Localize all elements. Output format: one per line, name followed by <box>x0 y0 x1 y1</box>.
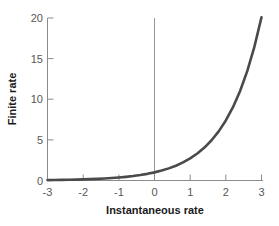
exponential-plot-svg: 20 15 10 5 0 -3 -2 -1 0 1 2 3 Instantane… <box>0 0 279 226</box>
x-tick-label-neg2: -2 <box>78 186 88 198</box>
y-axis-title: Finite rate <box>6 73 18 126</box>
x-tick-label-1: 1 <box>187 186 193 198</box>
y-tick-label-15: 15 <box>31 53 43 65</box>
chart-figure: 20 15 10 5 0 -3 -2 -1 0 1 2 3 Instantane… <box>0 0 279 226</box>
x-axis-title: Instantaneous rate <box>106 204 204 216</box>
x-tick-label-neg3: -3 <box>43 186 53 198</box>
x-tick-label-3: 3 <box>258 186 264 198</box>
x-tick-label-2: 2 <box>223 186 229 198</box>
y-tick-label-10: 10 <box>31 93 43 105</box>
y-tick-label-20: 20 <box>31 12 43 24</box>
x-tick-label-neg1: -1 <box>114 186 124 198</box>
y-tick-label-5: 5 <box>37 134 43 146</box>
y-tick-label-0: 0 <box>37 175 43 187</box>
x-tick-label-0: 0 <box>151 186 157 198</box>
